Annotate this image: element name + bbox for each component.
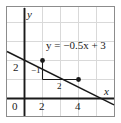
x-tick-label-2: 2 <box>39 101 45 112</box>
equation-annotation: y = −0.5x + 3 <box>46 40 106 51</box>
slope-rise-label: −1 <box>31 66 41 75</box>
y-axis-label: y <box>27 9 32 20</box>
origin-tick-label: 0 <box>12 101 18 112</box>
line-graph-figure: y x y = −0.5x + 3 0 2 4 2 −1 2 <box>0 0 121 123</box>
data-point <box>40 58 45 63</box>
data-point <box>76 77 81 82</box>
x-tick-label-4: 4 <box>75 101 81 112</box>
slope-run-label: 2 <box>57 82 62 91</box>
x-axis-label: x <box>104 86 109 97</box>
y-tick-label-2: 2 <box>13 62 19 73</box>
